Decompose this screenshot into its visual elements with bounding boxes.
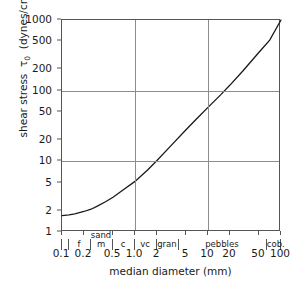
y-tick-label: 5 bbox=[45, 177, 52, 187]
x-tick-label: 0.5 bbox=[104, 248, 121, 259]
y-tick-label: 10 bbox=[39, 155, 52, 165]
x-axis-ticks: median diameter (mm) 0.10.20.51.02510205… bbox=[0, 231, 300, 294]
y-tick-label: 50 bbox=[39, 106, 52, 116]
plot-area bbox=[61, 19, 280, 231]
y-axis-ticks: 1251020501002005001000 bbox=[0, 19, 57, 231]
x-tick-mark bbox=[207, 231, 208, 235]
x-tick-mark bbox=[61, 231, 62, 235]
y-tick-label: 1000 bbox=[25, 14, 52, 24]
x-tick-label: 0.1 bbox=[53, 248, 70, 259]
x-tick-label: 1.0 bbox=[126, 248, 143, 259]
x-tick-label: 20 bbox=[222, 248, 235, 259]
x-tick-label: 100 bbox=[270, 248, 290, 259]
y-tick-label: 500 bbox=[32, 35, 52, 45]
x-tick-label: 50 bbox=[251, 248, 264, 259]
y-tick-label: 20 bbox=[39, 134, 52, 144]
x-tick-mark bbox=[112, 231, 113, 235]
gridline-horizontal bbox=[62, 91, 279, 92]
y-tick-label: 2 bbox=[45, 205, 52, 215]
x-axis-title: median diameter (mm) bbox=[61, 265, 280, 277]
gridline-vertical bbox=[208, 20, 209, 230]
gridline-horizontal bbox=[62, 161, 279, 162]
x-tick-mark bbox=[185, 231, 186, 235]
x-tick-mark bbox=[229, 231, 230, 235]
x-tick-label: 2 bbox=[153, 248, 160, 259]
y-tick-label: 100 bbox=[32, 85, 52, 95]
chart-figure: shear stress τ0 (dynes/cm2) 125102050100… bbox=[0, 0, 300, 294]
x-tick-label: 10 bbox=[200, 248, 213, 259]
x-tick-label: 5 bbox=[182, 248, 189, 259]
x-tick-mark bbox=[83, 231, 84, 235]
y-tick-label: 200 bbox=[32, 63, 52, 73]
curve-path bbox=[62, 20, 281, 216]
x-tick-mark bbox=[280, 231, 281, 235]
x-tick-label: 0.2 bbox=[75, 248, 92, 259]
shear-stress-curve bbox=[62, 20, 281, 232]
gridline-vertical bbox=[135, 20, 136, 230]
x-tick-mark bbox=[156, 231, 157, 235]
x-tick-mark bbox=[134, 231, 135, 235]
x-tick-mark bbox=[258, 231, 259, 235]
